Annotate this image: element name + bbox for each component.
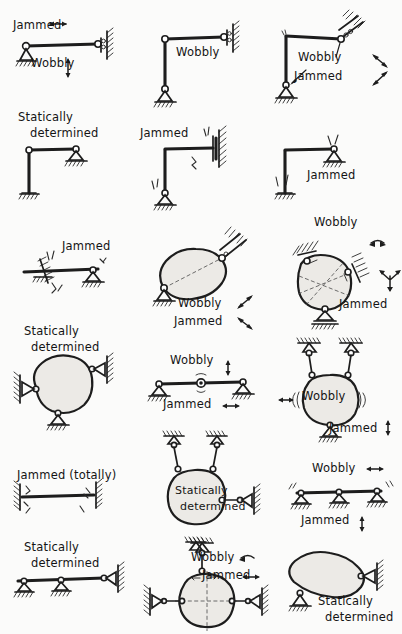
diagram-cell-r3c1: Jammed <box>0 215 134 330</box>
label-jammed: Jammed <box>62 240 110 253</box>
label-wobbly: Wobbly <box>170 354 214 367</box>
label-jammed: Jammed <box>174 315 222 328</box>
label-jammed: Jammed <box>163 398 211 411</box>
label-statically: Statically <box>318 595 373 608</box>
label-jammed: Jammed <box>294 70 342 83</box>
diagram-cell-r5c3: Wobbly Jammed <box>268 440 402 550</box>
label-wobbly: Wobbly <box>178 297 222 310</box>
diagram-cell-r1c2: Wobbly <box>134 0 268 105</box>
label-jammed: Jammed <box>140 127 188 140</box>
diagram-cell-r4c1: Statically determined <box>0 325 134 445</box>
diagram-cell-r4c3: Wobbly Jammed <box>268 330 402 450</box>
label-jammed: Jammed <box>202 569 250 582</box>
diagram-cell-r6c2: Wobbly Jammed <box>134 535 268 634</box>
diagram-cell-r2c1: Statically determined <box>0 105 134 215</box>
diagram-cell-r1c3: Wobbly Jammed <box>268 0 402 105</box>
label-determined: determined <box>325 611 394 624</box>
label-jammed: Jammed <box>339 298 387 311</box>
label-wobbly: Wobbly <box>31 57 75 70</box>
diagram-cell-r5c1: Jammed (totally) <box>0 440 134 550</box>
figure-sheet: Jammed Wobbly Wobbly <box>0 0 402 634</box>
label-wobbly: Wobbly <box>314 216 358 229</box>
label-jammed: Jammed <box>329 422 377 435</box>
diagram-cell-r6c1: Statically determined <box>0 535 134 634</box>
label-jammed-totally: Jammed (totally) <box>17 469 116 482</box>
label-wobbly: Wobbly <box>302 390 346 403</box>
label-determined: determined <box>31 557 100 570</box>
diagram-cell-r2c2: Jammed <box>134 105 268 215</box>
label-statically: Statically <box>18 111 73 124</box>
diagram-cell-r2c3: Jammed <box>268 105 402 215</box>
label-wobbly: Wobbly <box>312 462 356 475</box>
label-wobbly: Wobbly <box>298 51 342 64</box>
diagram-cell-r3c2: Wobbly Jammed <box>134 215 268 335</box>
label-jammed: Jammed <box>301 514 349 527</box>
label-statically: Statically <box>24 325 79 338</box>
label-determined: determined <box>31 341 100 354</box>
diagram-cell-r6c3: Statically determined <box>268 535 402 634</box>
label-determined: determined <box>180 501 246 513</box>
label-wobbly: Wobbly <box>176 46 220 59</box>
label-statically: Statically <box>175 485 228 497</box>
label-determined: determined <box>30 127 99 140</box>
label-wobbly: Wobbly <box>191 551 235 564</box>
diagram-cell-r1c1: Jammed Wobbly <box>0 0 134 105</box>
label-jammed: Jammed <box>13 19 61 32</box>
label-jammed: Jammed <box>307 169 355 182</box>
diagram-cell-r3c3: Wobbly Jammed <box>268 210 402 335</box>
label-statically: Statically <box>24 541 79 554</box>
